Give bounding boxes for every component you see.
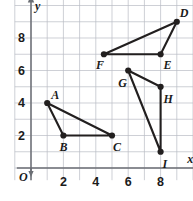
vertex-dot-f bbox=[101, 51, 107, 57]
origin-tick-arrow bbox=[28, 171, 33, 177]
y-tick-label-6: 6 bbox=[18, 65, 25, 78]
y-tick-label-4: 4 bbox=[18, 97, 25, 110]
point-label-d: D bbox=[180, 7, 189, 19]
coordinate-graph: ABCDEFGHI24682468yxO bbox=[0, 0, 193, 201]
x-axis-label: x bbox=[187, 153, 193, 165]
point-label-i: I bbox=[163, 158, 168, 170]
vertex-dot-a bbox=[44, 100, 50, 106]
vertex-dot-i bbox=[158, 149, 164, 155]
origin-label: O bbox=[19, 171, 28, 183]
x-tick-label-8: 8 bbox=[157, 176, 164, 189]
vertex-dot-b bbox=[60, 132, 66, 138]
vertex-dot-d bbox=[174, 19, 180, 25]
y-axis-arrow bbox=[28, 0, 34, 3]
vertex-dot-g bbox=[125, 67, 131, 73]
vertex-dot-e bbox=[158, 51, 164, 57]
x-tick-label-6: 6 bbox=[125, 176, 132, 189]
point-label-a: A bbox=[51, 89, 59, 101]
point-label-g: G bbox=[118, 77, 127, 89]
x-tick-label-2: 2 bbox=[60, 176, 67, 189]
y-tick-label-8: 8 bbox=[18, 32, 25, 45]
vertex-dot-c bbox=[109, 132, 115, 138]
point-label-c: C bbox=[113, 141, 121, 153]
point-label-b: B bbox=[59, 141, 67, 153]
y-axis-label: y bbox=[35, 0, 40, 12]
vertex-dot-h bbox=[158, 84, 164, 90]
y-tick-label-2: 2 bbox=[18, 130, 25, 143]
x-tick-label-4: 4 bbox=[92, 176, 99, 189]
point-label-e: E bbox=[164, 59, 172, 71]
point-label-h: H bbox=[164, 93, 173, 105]
point-label-f: F bbox=[96, 59, 104, 71]
